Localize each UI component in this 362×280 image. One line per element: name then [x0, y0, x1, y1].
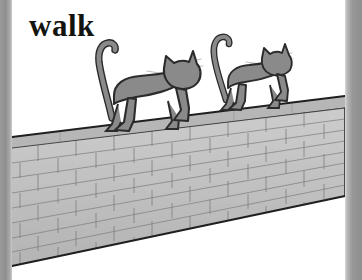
- cat-front-head: [164, 51, 201, 89]
- scan-edge-right: [345, 0, 362, 280]
- cat-back: [214, 37, 293, 110]
- cat-back-legs-back: [221, 85, 280, 110]
- artboard: walk: [0, 0, 362, 280]
- caption-word: walk: [29, 9, 95, 43]
- illustration-scene: walk: [0, 0, 362, 280]
- cat-front: [99, 43, 203, 131]
- cat-front-legs-back: [106, 101, 179, 131]
- cat-back-head: [262, 44, 292, 75]
- scan-edge-left: [0, 0, 12, 280]
